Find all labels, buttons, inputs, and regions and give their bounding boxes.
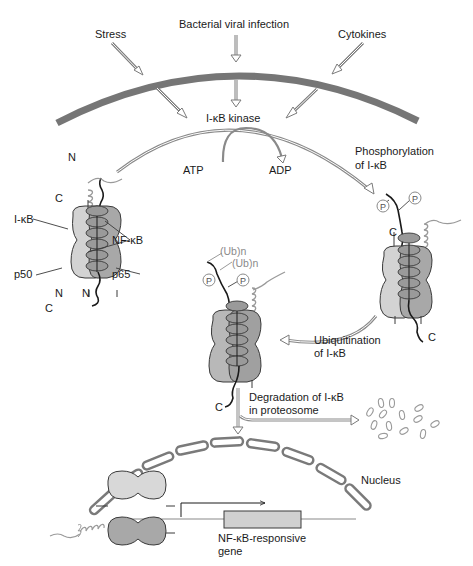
phospho-c-terminus-bottom: C [428, 331, 436, 344]
gene-label-line2: gene [218, 545, 242, 558]
phospho-p2-text: P [412, 194, 418, 204]
ubiquitination-label-line1: Ubiquitination [314, 334, 381, 347]
ubiq-p1-text: P [206, 276, 212, 286]
ubiquitin-chain-label-2: (Ub)n [232, 257, 258, 270]
ubiquitination-label-line2: of I-κB [314, 347, 346, 360]
phospho-c-terminus-left: C [389, 226, 397, 239]
nfkb-pathway-diagram: Stress Bacterial viral infection Cytokin… [0, 0, 473, 566]
phospho-p1-text: P [380, 202, 386, 212]
degradation-label-line1: Degradation of I-κB [249, 391, 344, 404]
phospho-text-layer: P P P P [0, 0, 473, 566]
ubiq-p2-text: P [240, 276, 246, 286]
degradation-label-line2: in proteosome [249, 404, 319, 417]
gene-label-line1: NF-κB-responsive [218, 532, 306, 545]
nucleus-label: Nucleus [361, 474, 401, 487]
ubiq-c-terminus-bottom: C [215, 401, 223, 414]
